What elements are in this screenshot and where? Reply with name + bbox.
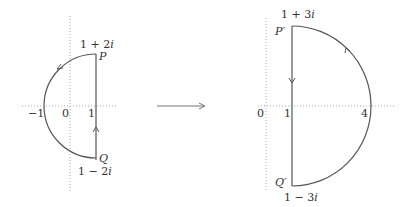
left-label-zero: 0 [62, 107, 69, 120]
right-point-p-value: 1 + 3i [281, 8, 315, 21]
left-point-q-name: Q [99, 152, 108, 165]
contour-mapping-diagram: −1 0 1 1 + 2i P Q 1 − 2i 0 1 4 1 + 3i P′… [0, 0, 408, 207]
left-point-p-value: 1 + 2i [80, 38, 114, 51]
right-label-one: 1 [284, 107, 291, 120]
left-point-p-name: P [98, 50, 107, 63]
left-point-q-value: 1 − 2i [78, 165, 112, 178]
left-label-one: 1 [88, 107, 95, 120]
right-label-zero: 0 [257, 107, 264, 120]
left-contour: −1 0 1 1 + 2i P Q 1 − 2i [22, 16, 118, 192]
left-label-neg-one: −1 [28, 107, 44, 120]
right-contour: 0 1 4 1 + 3i P′ Q′ 1 − 3i [257, 8, 396, 204]
right-label-four: 4 [361, 107, 368, 120]
mapping-arrow-icon [157, 103, 205, 109]
right-point-q-value: 1 − 3i [284, 191, 318, 204]
right-point-p-name: P′ [274, 25, 285, 38]
right-arc-arrow-icon [345, 48, 350, 53]
right-point-q-name: Q′ [275, 176, 287, 189]
